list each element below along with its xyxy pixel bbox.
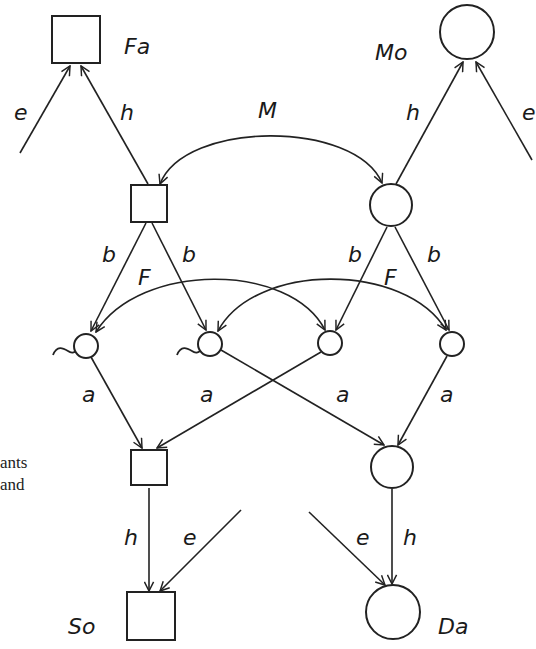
gamete-3 <box>318 331 342 355</box>
path-label-h-mo: h <box>406 100 420 125</box>
gamete-2-wavy-tail <box>177 348 200 355</box>
path-label-e-mo: e <box>522 100 536 125</box>
path-label-e-fa: e <box>14 100 28 125</box>
path-label-a-3: a <box>336 382 349 407</box>
daughter-genotype-node <box>371 446 413 488</box>
path-label-e-da: e <box>356 525 370 550</box>
gamete-2 <box>198 332 222 356</box>
gamete-4 <box>440 332 464 356</box>
edge-e-to-so <box>160 510 241 591</box>
path-label-f-2: F <box>384 265 397 290</box>
edge-a-gamete2-daughter <box>221 350 384 445</box>
path-label-a-4: a <box>440 382 453 407</box>
path-label-a-1: a <box>82 382 95 407</box>
daughter-node-da <box>366 585 420 639</box>
edge-mating-m <box>160 136 382 184</box>
edge-f-gamete2-gamete4 <box>218 279 446 331</box>
path-label-h-so: h <box>124 525 138 550</box>
edge-f-gamete1-gamete3 <box>96 279 325 332</box>
daughter-label: Da <box>438 614 468 639</box>
path-label-b-2: b <box>182 242 196 267</box>
father-node-fa <box>52 16 100 63</box>
mother-genotype-node <box>370 184 412 226</box>
edge-e-to-da <box>309 512 385 585</box>
path-label-f-1: F <box>138 265 151 290</box>
son-label: So <box>68 614 95 639</box>
path-label-b-3: b <box>348 242 362 267</box>
edge-a-gamete3-son <box>157 352 321 448</box>
mother-label: Mo <box>375 40 407 65</box>
father-label: Fa <box>124 34 150 59</box>
gamete-1-wavy-tail <box>53 348 76 355</box>
edge-a-gamete1-son <box>91 357 142 448</box>
path-label-m: M <box>258 98 277 123</box>
path-label-a-2: a <box>200 382 213 407</box>
path-label-e-so: e <box>183 525 197 550</box>
path-label-h-fa: h <box>120 100 134 125</box>
mother-node-mo <box>440 5 494 59</box>
father-genotype-node <box>131 185 167 222</box>
path-diagram: Fa Mo e h h e M b b b b F F <box>0 0 536 649</box>
path-label-b-1: b <box>102 242 116 267</box>
gamete-1 <box>74 334 98 358</box>
son-genotype-node <box>131 450 167 485</box>
path-label-b-4: b <box>427 242 441 267</box>
son-node-so <box>127 592 175 640</box>
edge-b-father-gamete2 <box>152 223 206 330</box>
edge-h-to-fa <box>81 66 148 184</box>
path-label-h-da: h <box>403 525 417 550</box>
